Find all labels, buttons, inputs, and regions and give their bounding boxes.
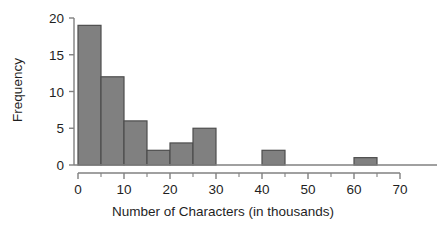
histogram-bar xyxy=(78,25,101,165)
x-axis-title: Number of Characters (in thousands) xyxy=(112,204,334,219)
histogram-bar xyxy=(262,150,285,165)
y-tick-label: 20 xyxy=(49,11,64,26)
x-tick-label: 0 xyxy=(74,182,82,197)
x-tick-label: 50 xyxy=(300,182,315,197)
histogram-bar xyxy=(170,143,193,165)
x-tick-label: 70 xyxy=(392,182,407,197)
y-axis-title: Frequency xyxy=(10,58,25,122)
x-tick-label: 40 xyxy=(254,182,269,197)
y-tick-label: 15 xyxy=(49,48,64,63)
histogram-bar xyxy=(193,128,216,165)
y-tick-label: 0 xyxy=(56,158,64,173)
x-tick-label: 20 xyxy=(162,182,177,197)
histogram-chart: 05101520 010203040506070 Number of Chara… xyxy=(0,0,447,230)
histogram-bar xyxy=(147,150,170,165)
histogram-bar xyxy=(101,77,124,165)
histogram-bar xyxy=(354,158,377,165)
x-tick-label: 10 xyxy=(116,182,131,197)
histogram-bar xyxy=(124,121,147,165)
x-tick-label: 60 xyxy=(346,182,361,197)
x-tick-label: 30 xyxy=(208,182,223,197)
y-tick-label: 5 xyxy=(56,121,64,136)
chart-canvas: 05101520 010203040506070 Number of Chara… xyxy=(0,0,447,230)
y-tick-label: 10 xyxy=(49,85,64,100)
